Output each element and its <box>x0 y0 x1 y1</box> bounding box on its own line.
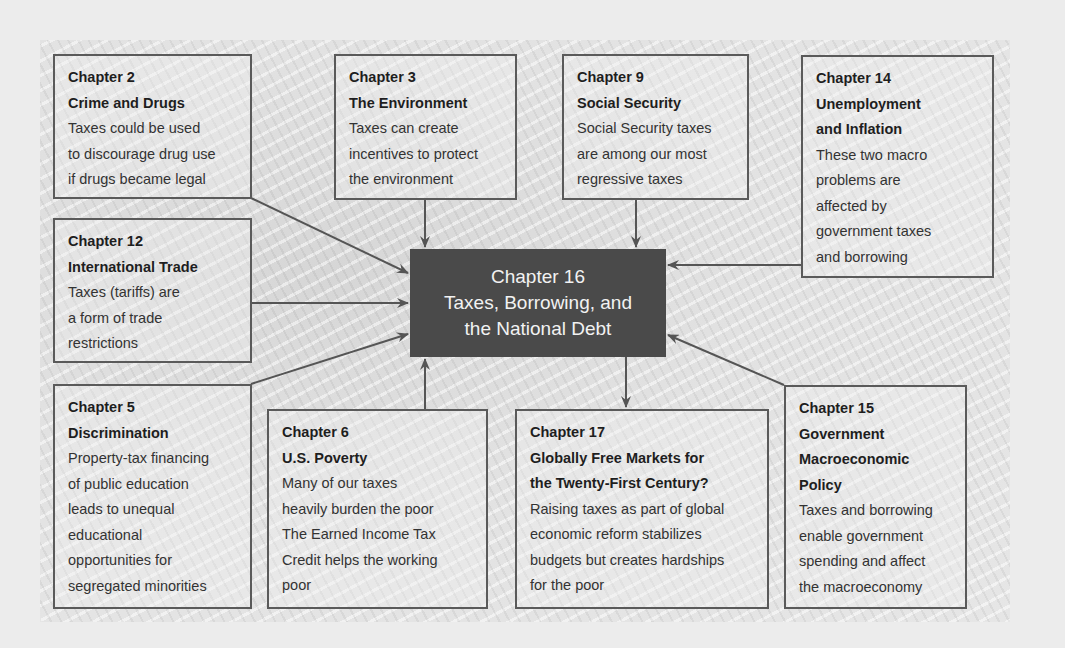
chapter-title: The Environment <box>349 91 515 117</box>
chapter-desc: problems are <box>816 168 992 194</box>
chapter-label: Chapter 5 <box>68 395 250 421</box>
chapter-box-6: Chapter 6 U.S. Poverty Many of our taxes… <box>267 409 488 609</box>
chapter-desc: segregated minorities <box>68 574 250 600</box>
chapter-desc: the macroeconomy <box>799 575 965 601</box>
chapter-desc: heavily burden the poor <box>282 497 486 523</box>
chapter-box-15: Chapter 15 Government Macroeconomic Poli… <box>784 385 967 609</box>
chapter-title: Unemployment <box>816 92 992 118</box>
central-topic-box: Chapter 16 Taxes, Borrowing, and the Nat… <box>410 249 666 357</box>
chapter-title: the Twenty-First Century? <box>530 471 767 497</box>
chapter-desc: government taxes <box>816 219 992 245</box>
chapter-label: Chapter 2 <box>68 65 250 91</box>
chapter-box-3: Chapter 3 The Environment Taxes can crea… <box>334 54 517 200</box>
chapter-desc: incentives to protect <box>349 142 515 168</box>
chapter-box-14: Chapter 14 Unemployment and Inflation Th… <box>801 55 994 278</box>
chapter-desc: Many of our taxes <box>282 471 486 497</box>
center-line-3: the National Debt <box>410 316 666 342</box>
chapter-box-2: Chapter 2 Crime and Drugs Taxes could be… <box>53 54 252 199</box>
chapter-title: Globally Free Markets for <box>530 446 767 472</box>
chapter-label: Chapter 17 <box>530 420 767 446</box>
chapter-title: International Trade <box>68 255 250 281</box>
chapter-label: Chapter 15 <box>799 396 965 422</box>
chapter-desc: opportunities for <box>68 548 250 574</box>
chapter-desc: spending and affect <box>799 549 965 575</box>
center-line-1: Chapter 16 <box>410 264 666 290</box>
chapter-desc: educational <box>68 523 250 549</box>
chapter-box-17: Chapter 17 Globally Free Markets for the… <box>515 409 769 609</box>
chapter-desc: Social Security taxes <box>577 116 747 142</box>
chapter-desc: to discourage drug use <box>68 142 250 168</box>
chapter-title: Policy <box>799 473 965 499</box>
chapter-desc: the environment <box>349 167 515 193</box>
chapter-title: U.S. Poverty <box>282 446 486 472</box>
chapter-desc: for the poor <box>530 573 767 599</box>
chapter-title: Government <box>799 422 965 448</box>
chapter-title: Social Security <box>577 91 747 117</box>
chapter-box-9: Chapter 9 Social Security Social Securit… <box>562 54 749 200</box>
chapter-desc: These two macro <box>816 143 992 169</box>
chapter-desc: budgets but creates hardships <box>530 548 767 574</box>
chapter-label: Chapter 9 <box>577 65 747 91</box>
arrow-ch2-to-center <box>251 198 408 273</box>
arrow-ch5-to-center <box>251 334 408 384</box>
chapter-label: Chapter 6 <box>282 420 486 446</box>
chapter-desc: Credit helps the working <box>282 548 486 574</box>
chapter-label: Chapter 12 <box>68 229 250 255</box>
chapter-title: Macroeconomic <box>799 447 965 473</box>
chapter-desc: are among our most <box>577 142 747 168</box>
chapter-title: and Inflation <box>816 117 992 143</box>
chapter-box-12: Chapter 12 International Trade Taxes (ta… <box>53 218 252 363</box>
chapter-box-5: Chapter 5 Discrimination Property-tax fi… <box>53 384 252 609</box>
chapter-desc: affected by <box>816 194 992 220</box>
chapter-desc: a form of trade <box>68 306 250 332</box>
chapter-desc: restrictions <box>68 331 250 357</box>
chapter-label: Chapter 14 <box>816 66 992 92</box>
chapter-desc: if drugs became legal <box>68 167 250 193</box>
chapter-desc: leads to unequal <box>68 497 250 523</box>
chapter-title: Crime and Drugs <box>68 91 250 117</box>
chapter-label: Chapter 3 <box>349 65 515 91</box>
chapter-desc: poor <box>282 573 486 599</box>
chapter-desc: of public education <box>68 472 250 498</box>
chapter-desc: Raising taxes as part of global <box>530 497 767 523</box>
center-line-2: Taxes, Borrowing, and <box>410 290 666 316</box>
chapter-desc: enable government <box>799 524 965 550</box>
chapter-desc: and borrowing <box>816 245 992 271</box>
chapter-desc: economic reform stabilizes <box>530 522 767 548</box>
chapter-desc: Taxes can create <box>349 116 515 142</box>
chapter-desc: Taxes could be used <box>68 116 250 142</box>
chapter-title: Discrimination <box>68 421 250 447</box>
arrow-ch15-to-center <box>668 335 784 385</box>
chapter-desc: regressive taxes <box>577 167 747 193</box>
chapter-desc: Property-tax financing <box>68 446 250 472</box>
chapter-desc: Taxes and borrowing <box>799 498 965 524</box>
chapter-desc: The Earned Income Tax <box>282 522 486 548</box>
chapter-desc: Taxes (tariffs) are <box>68 280 250 306</box>
